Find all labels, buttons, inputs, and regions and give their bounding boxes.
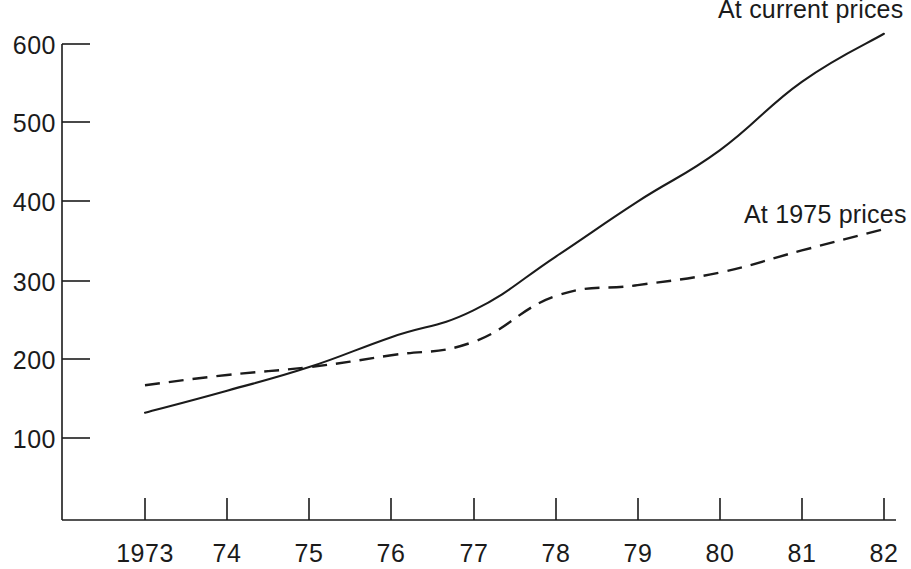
x-axis-tick-label-79: 79	[598, 539, 678, 568]
y-axis-tick-label-500: 500	[0, 109, 56, 138]
y-axis-tick-label-200: 200	[0, 346, 56, 375]
y-axis-tick-label-400: 400	[0, 188, 56, 217]
y-axis-tick-label-600: 600	[0, 31, 56, 60]
x-axis-tick-label-76: 76	[351, 539, 431, 568]
series-label-at-current-prices: At current prices	[718, 0, 903, 24]
x-axis-tick-label-82: 82	[844, 539, 911, 568]
series-label-at-1975-prices: At 1975 prices	[744, 200, 907, 229]
y-axis-tick-label-300: 300	[0, 268, 56, 297]
x-axis-tick-label-80: 80	[680, 539, 760, 568]
series-line-at-1975-prices	[145, 229, 884, 385]
x-axis-tick-label-77: 77	[434, 539, 514, 568]
x-axis-tick-label-78: 78	[516, 539, 596, 568]
x-axis-tick-label-74: 74	[187, 539, 267, 568]
y-axis-tick-label-100: 100	[0, 425, 56, 454]
x-axis-tick-label-81: 81	[762, 539, 842, 568]
x-axis-tick-label-1973: 1973	[105, 539, 185, 568]
x-axis-tick-label-75: 75	[269, 539, 349, 568]
